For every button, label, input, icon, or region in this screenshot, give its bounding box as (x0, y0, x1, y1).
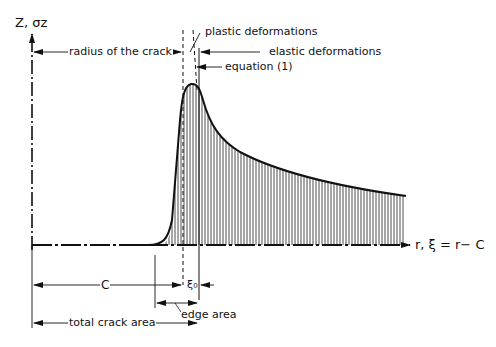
x-axis-label: r, ξ = r− C (414, 238, 485, 252)
stress-curve (120, 84, 406, 245)
c-label: C (100, 279, 110, 291)
radius-of-crack-label: radius of the crack (68, 46, 173, 58)
y-axis-label: Z, σz (14, 16, 48, 30)
xi0-label: ξ₀ (186, 279, 199, 291)
edge-area-label: edge area (180, 309, 238, 321)
total-crack-area-label: total crack area (68, 317, 156, 329)
plastic-deformations-label: plastic deformations (204, 26, 318, 38)
elastic-deformations-label: elastic deformations (268, 46, 382, 58)
equation-label: equation (1) (224, 61, 294, 73)
